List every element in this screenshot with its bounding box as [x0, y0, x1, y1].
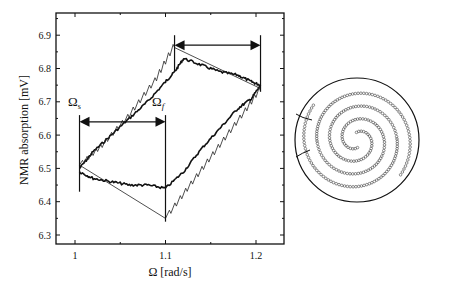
bead [392, 104, 395, 107]
bead [346, 185, 349, 188]
bead [376, 109, 379, 112]
bead [328, 137, 331, 140]
bead [368, 182, 371, 185]
bead [389, 121, 392, 124]
bead [387, 100, 390, 103]
bead [316, 169, 319, 172]
bead [303, 135, 306, 138]
omega-f-label: Ωf [152, 94, 166, 111]
bead [330, 165, 333, 168]
bead [322, 175, 325, 178]
bead [352, 106, 355, 109]
bead [338, 183, 341, 186]
bead [371, 142, 374, 145]
bead [379, 96, 382, 99]
bead [384, 114, 387, 117]
bead [340, 171, 343, 174]
bead [405, 124, 408, 127]
y-tick-label: 6.5 [39, 163, 52, 174]
bead [303, 132, 306, 135]
bead [349, 173, 352, 176]
bead [310, 162, 313, 165]
bead [365, 92, 368, 95]
y-tick-label: 6.3 [39, 230, 52, 241]
bead [366, 183, 369, 186]
y-tick-label: 6.6 [39, 130, 52, 141]
bead [349, 93, 352, 96]
bead [318, 171, 321, 174]
bead [400, 113, 403, 116]
bead [407, 155, 410, 158]
bead [347, 159, 350, 162]
bead [329, 142, 332, 145]
bead [356, 118, 359, 121]
bead [403, 168, 406, 171]
omega-s-label: Ωs [68, 94, 81, 111]
bead [355, 160, 358, 163]
bead [330, 180, 333, 183]
bead [327, 179, 330, 182]
x-tick-label: 1 [73, 250, 78, 261]
bead [333, 167, 336, 170]
bead [354, 118, 357, 121]
bead [396, 108, 399, 111]
bead [357, 105, 360, 108]
bead [382, 97, 385, 100]
y-tick-label: 6.8 [39, 63, 52, 74]
bead [383, 144, 386, 147]
bead [401, 171, 404, 174]
bead [349, 106, 352, 109]
bead [341, 184, 344, 187]
bead [383, 149, 386, 152]
bead [357, 172, 360, 175]
x-tick-label: 1.1 [159, 250, 172, 261]
arrowhead-icon [80, 117, 90, 127]
bead [371, 145, 374, 148]
bead [404, 165, 407, 168]
bead [342, 158, 345, 161]
bead [354, 173, 357, 176]
bead [363, 105, 366, 108]
plot-area [80, 44, 261, 218]
bead [388, 118, 391, 121]
bead [383, 146, 386, 149]
bead [360, 92, 363, 95]
arrowhead-icon [156, 117, 166, 127]
bead [353, 160, 356, 163]
bead [368, 106, 371, 109]
bead [405, 162, 408, 165]
bead [318, 148, 321, 151]
bead [358, 159, 361, 162]
measured-curve [80, 85, 261, 188]
bead [307, 113, 310, 116]
bead [369, 120, 372, 123]
bead [306, 153, 309, 156]
bead [343, 172, 346, 175]
bead [398, 111, 401, 114]
bead [312, 164, 315, 167]
bead [374, 94, 377, 97]
bead [407, 159, 410, 162]
model-curve [80, 44, 261, 165]
bead [394, 106, 397, 109]
bead [355, 185, 358, 188]
bead [408, 133, 411, 136]
bead [362, 171, 365, 174]
bead [309, 159, 312, 162]
bead [359, 118, 362, 121]
y-axis-label: NMR absorption [mV] [17, 75, 31, 185]
bead [384, 99, 387, 102]
bead [395, 132, 398, 135]
bead [368, 93, 371, 96]
bead [409, 146, 412, 149]
bead [351, 173, 354, 176]
bead [366, 105, 369, 108]
bead [335, 182, 338, 185]
bead [360, 185, 363, 188]
bead [352, 186, 355, 189]
bead [367, 119, 370, 122]
bead [409, 139, 412, 142]
bead [329, 139, 332, 142]
bead [341, 135, 344, 138]
spiral-vortex-diagram [295, 78, 419, 202]
